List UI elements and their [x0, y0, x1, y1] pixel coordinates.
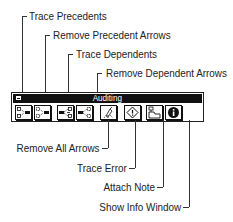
- palette-title: Auditing: [93, 94, 122, 103]
- remove-precedent-arrows-button[interactable]: [34, 105, 51, 120]
- callout-trace-dependents: Trace Dependents: [76, 48, 157, 60]
- attach-note-button[interactable]: [146, 105, 163, 120]
- trace-precedents-icon: [16, 106, 31, 119]
- callout-attach-note: Attach Note: [103, 181, 155, 193]
- leader-line: [108, 120, 109, 148]
- show-info-window-button[interactable]: [165, 105, 182, 120]
- callout-trace-precedents: Trace Precedents: [29, 10, 107, 22]
- leader-line: [102, 148, 108, 149]
- remove-dependent-arrows-icon: [77, 106, 92, 119]
- callout-trace-error: Trace Error: [77, 162, 127, 174]
- remove-all-arrows-button[interactable]: [100, 105, 117, 120]
- callout-remove-precedent-arrows: Remove Precedent Arrows: [53, 29, 171, 41]
- trace-error-icon: [125, 106, 140, 119]
- remove-precedent-arrows-icon: [35, 106, 50, 119]
- palette-titlebar[interactable]: Auditing: [13, 94, 202, 103]
- trace-dependents-icon: [58, 106, 73, 119]
- leader-line: [183, 207, 189, 208]
- leader-line: [189, 120, 190, 207]
- callout-remove-all-arrows: Remove All Arrows: [17, 142, 100, 154]
- leader-line: [129, 168, 135, 169]
- trace-dependents-button[interactable]: [57, 105, 74, 120]
- remove-all-arrows-icon: [101, 106, 116, 119]
- callout-show-info-window: Show Info Window: [99, 201, 181, 213]
- leader-line: [22, 16, 23, 104]
- auditing-palette: Auditing: [11, 92, 204, 122]
- leader-line: [135, 120, 136, 168]
- info-icon: [166, 106, 181, 119]
- callout-remove-dependent-arrows: Remove Dependent Arrows: [106, 67, 227, 79]
- leader-line: [163, 120, 164, 187]
- trace-precedents-button[interactable]: [15, 105, 32, 120]
- leader-line: [157, 187, 163, 188]
- trace-error-button[interactable]: [124, 105, 141, 120]
- close-box-icon[interactable]: [15, 95, 22, 101]
- remove-dependent-arrows-button[interactable]: [76, 105, 93, 120]
- attach-note-icon: [147, 106, 162, 119]
